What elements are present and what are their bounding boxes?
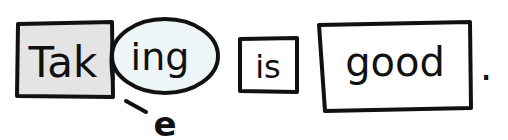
stem-text: Tak	[28, 38, 98, 87]
deletion-stroke-icon	[126, 101, 146, 112]
dropped-letter-mark: e	[126, 101, 177, 140]
word-box-good: good	[319, 22, 471, 111]
word-is-text: is	[255, 48, 281, 86]
word-box-is: is	[240, 38, 297, 92]
word-good-text: good	[345, 39, 445, 85]
morphology-diagram: Tak ing e is good .	[0, 0, 508, 140]
dropped-letter-text: e	[153, 104, 176, 140]
period-text: .	[480, 43, 493, 89]
suffix-ellipse: ing	[112, 19, 219, 93]
stem-box: Tak	[17, 22, 113, 97]
suffix-text: ing	[131, 35, 190, 79]
